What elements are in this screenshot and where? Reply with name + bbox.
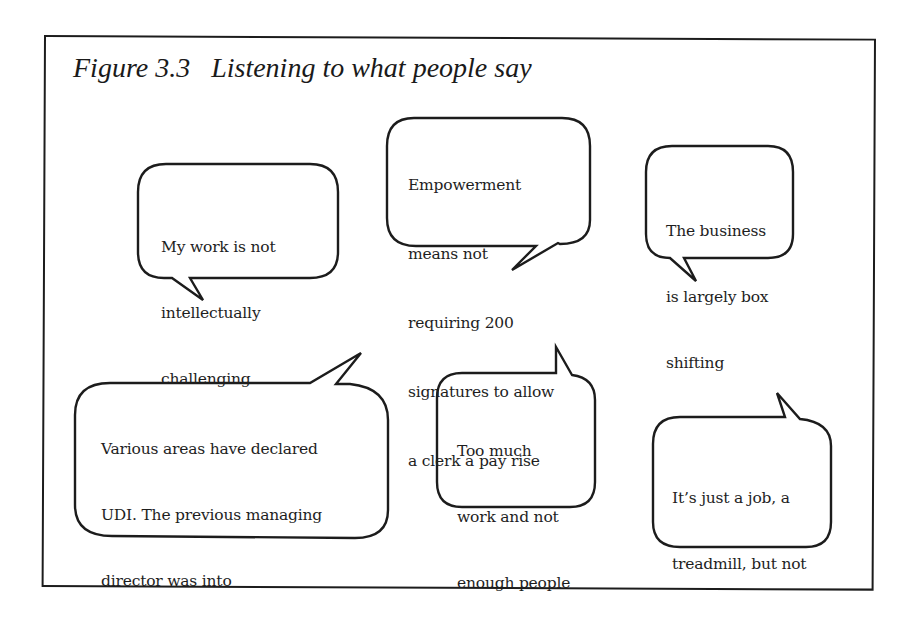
- bubble-line: My work is not: [161, 236, 275, 258]
- bubble-5-text: Too much work and not enough people to d…: [457, 396, 570, 621]
- bubble-line: work and not: [457, 506, 570, 528]
- bubble-line: It’s just a job, a: [672, 487, 806, 509]
- bubble-line: enough people: [457, 572, 570, 594]
- bubble-6-text: It’s just a job, a treadmill, but not ne…: [672, 443, 806, 621]
- bubble-line: treadmill, but not: [672, 553, 806, 575]
- bubble-4-text: Various areas have declared UDI. The pre…: [101, 394, 322, 621]
- bubble-line: director was into: [101, 570, 322, 592]
- bubble-line: is largely box: [666, 286, 768, 308]
- bubble-line: Various areas have declared: [101, 438, 322, 460]
- bubble-line: intellectually: [161, 302, 275, 324]
- bubble-line: means not: [408, 243, 554, 266]
- bubble-1-text: My work is not intellectually challengin…: [161, 192, 275, 412]
- bubble-line: shifting: [666, 352, 768, 374]
- bubble-line: The business: [666, 220, 768, 242]
- bubble-line: requiring 200: [408, 312, 554, 335]
- bubble-line: UDI. The previous managing: [101, 504, 322, 526]
- bubble-line: Too much: [457, 440, 570, 462]
- bubble-3-text: The business is largely box shifting: [666, 176, 768, 396]
- bubble-line: Empowerment: [408, 174, 554, 197]
- bubble-line: challenging: [161, 368, 275, 390]
